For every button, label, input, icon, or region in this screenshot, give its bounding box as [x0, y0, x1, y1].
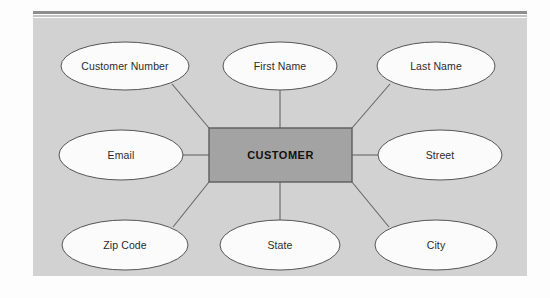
attribute-ellipse-state[interactable] [220, 220, 340, 270]
entity-box-customer[interactable] [209, 128, 352, 182]
attribute-ellipse-street[interactable] [378, 130, 502, 180]
entity-shape [209, 128, 352, 182]
attribute-ellipse-last-name[interactable] [377, 42, 495, 90]
attribute-ellipse-customer-number[interactable] [61, 42, 189, 90]
connector-last-name [352, 84, 390, 128]
attribute-ellipse-zip-code[interactable] [62, 220, 188, 270]
attribute-ellipse-city[interactable] [375, 220, 497, 270]
diagram-canvas [33, 18, 527, 276]
diagram-panel: CUSTOMERCustomer NumberFirst NameLast Na… [33, 18, 527, 276]
connector-zip-code [173, 182, 209, 227]
er-diagram-figure: CUSTOMERCustomer NumberFirst NameLast Na… [0, 0, 550, 298]
connector-city [352, 182, 389, 227]
top-rule-dark [33, 11, 527, 14]
top-rule-light [33, 15, 527, 17]
connector-customer-number [172, 84, 209, 128]
attribute-ellipse-first-name[interactable] [223, 42, 337, 90]
attribute-ellipse-email[interactable] [59, 130, 183, 180]
